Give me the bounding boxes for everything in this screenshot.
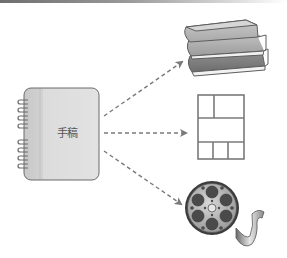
arrow-to-books <box>104 62 182 116</box>
arrow-to-film <box>104 151 181 204</box>
diagram-canvas <box>0 0 287 258</box>
film-strip <box>236 210 264 246</box>
notebook-label: 手稿 <box>50 124 84 140</box>
film-reel-icon <box>185 181 264 246</box>
arrows <box>104 62 186 204</box>
books-icon <box>185 20 268 76</box>
page-layout-icon <box>198 95 244 159</box>
